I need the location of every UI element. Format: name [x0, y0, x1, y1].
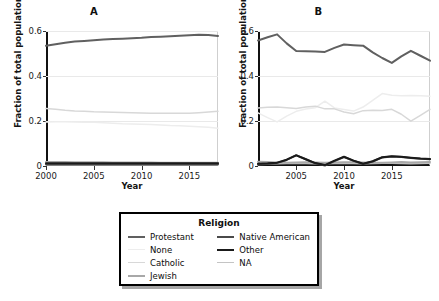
x-tick-mark	[142, 166, 143, 170]
figure-religion-fraction-panels: A Fraction of total population Year 00.2…	[0, 0, 439, 301]
legend-item[interactable]: Native American	[217, 230, 310, 243]
y-tick-label: 0.6	[28, 26, 42, 36]
panel-a: A Fraction of total population Year 00.2…	[0, 0, 220, 200]
legend-item[interactable]: Jewish	[128, 269, 214, 282]
legend-line-swatch	[128, 275, 145, 277]
legend-item-label: Native American	[239, 232, 310, 242]
legend-column-left: ProtestantNoneCatholicJewish	[128, 230, 214, 282]
panel-b-x-axis-label: Year	[258, 181, 430, 191]
legend-line-swatch	[217, 236, 234, 238]
legend-column-right: Native AmericanOtherNA	[214, 230, 310, 282]
legend-item[interactable]: None	[128, 243, 214, 256]
y-tick-label: 0.2	[240, 116, 254, 126]
series-line-catholic	[258, 106, 430, 121]
legend-item-label: None	[150, 245, 172, 255]
series-line-protestant	[46, 35, 218, 46]
legend: Religion ProtestantNoneCatholicJewish Na…	[119, 212, 319, 286]
x-tick-label: 2000	[35, 171, 57, 181]
series-line-jewish	[258, 162, 430, 163]
x-tick-label: 2015	[179, 171, 201, 181]
x-tick-label: 2015	[381, 171, 403, 181]
x-tick-mark	[46, 166, 47, 170]
panel-b: B Fraction of total population Year 00.2…	[220, 0, 439, 200]
panel-b-y-axis-label: Fraction of total population	[238, 0, 248, 130]
legend-title: Religion	[121, 218, 317, 228]
legend-line-swatch	[128, 249, 145, 250]
legend-line-swatch	[217, 249, 234, 251]
y-tick-label: 0.4	[240, 71, 254, 81]
y-tick-mark	[255, 166, 258, 167]
legend-line-swatch	[217, 262, 234, 263]
legend-item[interactable]: NA	[217, 256, 310, 269]
legend-line-swatch	[128, 262, 145, 263]
series-layer	[258, 31, 430, 166]
x-tick-mark	[392, 166, 393, 170]
x-tick-label: 2010	[333, 171, 355, 181]
panel-a-x-axis-label: Year	[46, 181, 218, 191]
y-tick-label: 0.6	[240, 26, 254, 36]
series-layer	[46, 31, 218, 166]
y-tick-label: 0.2	[28, 116, 42, 126]
legend-line-swatch	[128, 236, 145, 238]
legend-item-label: Catholic	[150, 258, 184, 268]
x-tick-mark	[344, 166, 345, 170]
series-line-none	[46, 122, 218, 129]
x-tick-mark	[296, 166, 297, 170]
series-line-protestant	[258, 34, 430, 63]
y-tick-label: 0	[37, 161, 42, 171]
x-tick-mark	[189, 166, 190, 170]
panel-a-title: A	[0, 6, 204, 17]
legend-item-label: Jewish	[150, 271, 177, 281]
x-tick-label: 2010	[131, 171, 153, 181]
series-line-catholic	[46, 108, 218, 113]
legend-item[interactable]: Protestant	[128, 230, 214, 243]
x-tick-label: 2005	[83, 171, 105, 181]
panel-b-plot-area: 00.20.40.6200520102015	[258, 31, 430, 166]
legend-item-label: Protestant	[150, 232, 194, 242]
legend-item[interactable]: Other	[217, 243, 310, 256]
legend-item[interactable]: Catholic	[128, 256, 214, 269]
x-tick-mark	[94, 166, 95, 170]
x-tick-label: 2005	[285, 171, 307, 181]
panel-a-y-axis-label: Fraction of total population	[13, 0, 23, 130]
legend-item-label: Other	[239, 245, 263, 255]
panel-a-plot-area: 00.20.40.62000200520102015	[46, 31, 218, 166]
y-tick-label: 0	[249, 161, 254, 171]
legend-item-label: NA	[239, 258, 251, 268]
y-tick-label: 0.4	[28, 71, 42, 81]
